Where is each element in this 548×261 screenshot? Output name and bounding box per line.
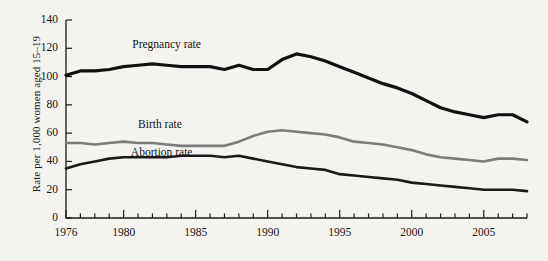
- y-axis-tick-label: 40: [24, 155, 58, 165]
- x-axis-tick-label: 2000: [389, 226, 435, 238]
- series-annotation-pregnancy-rate: Pregnancy rate: [132, 38, 201, 50]
- x-axis-tick-label: 1990: [245, 226, 291, 238]
- y-axis-tick-label: 140: [24, 14, 58, 24]
- y-axis-tick-label: 20: [24, 184, 58, 194]
- chart-container: Rate per 1,000 women aged 15–19 02040608…: [0, 0, 548, 261]
- y-axis-tick-label: 80: [24, 99, 58, 109]
- series-annotation-abortion-rate: Abortion rate: [131, 146, 193, 158]
- y-axis-tick-label: 60: [24, 127, 58, 137]
- y-axis-tick-label: 120: [24, 42, 58, 52]
- x-axis-tick-label: 1980: [101, 226, 147, 238]
- x-axis-tick-label: 1976: [43, 226, 89, 238]
- y-axis-tick-label: 100: [24, 71, 58, 81]
- series-line-abortion-rate: [66, 156, 527, 191]
- x-axis-tick-label: 1985: [173, 226, 219, 238]
- x-axis-tick-label: 2005: [461, 226, 507, 238]
- x-axis-tick-label: 1995: [317, 226, 363, 238]
- y-axis-tick-label: 0: [24, 212, 58, 222]
- chart-plot-area: [0, 0, 548, 261]
- series-line-pregnancy-rate: [66, 54, 527, 122]
- series-annotation-birth-rate: Birth rate: [138, 118, 182, 130]
